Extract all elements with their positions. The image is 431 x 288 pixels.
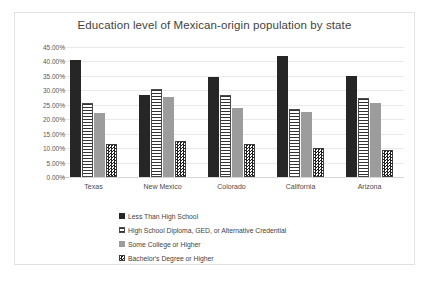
bar[interactable] xyxy=(244,144,255,178)
bar[interactable] xyxy=(70,60,81,177)
y-axis-tick-label: 20.00% xyxy=(21,116,65,123)
y-axis-tick-label: 40.00% xyxy=(21,58,65,65)
bar[interactable] xyxy=(370,103,381,177)
bar[interactable] xyxy=(346,76,357,177)
bar[interactable] xyxy=(220,95,231,177)
bar-group: Arizona xyxy=(335,47,404,177)
legend-swatch-icon xyxy=(119,255,125,261)
bar-group: Texas xyxy=(59,47,128,177)
y-axis-tick-label: 25.00% xyxy=(21,101,65,108)
bar[interactable] xyxy=(163,97,174,177)
legend-item[interactable]: Some College or Higher xyxy=(119,237,379,251)
bar-group: New Mexico xyxy=(128,47,197,177)
legend-label: Some College or Higher xyxy=(128,241,201,248)
legend-label: Bachelor's Degree or Higher xyxy=(128,255,214,262)
y-axis-tick-label: 45.00% xyxy=(21,44,65,51)
plot-area: TexasNew MexicoColoradoCaliforniaArizona xyxy=(59,47,404,177)
chart-container: Education level of Mexican-origin popula… xyxy=(14,12,415,265)
x-axis-tick-label: Arizona xyxy=(335,183,404,190)
bar[interactable] xyxy=(82,103,93,177)
bar[interactable] xyxy=(358,98,369,177)
bar[interactable] xyxy=(175,141,186,177)
y-axis-tick-label: 5.00% xyxy=(21,159,65,166)
legend-item[interactable]: Bachelor's Degree or Higher xyxy=(119,251,379,265)
y-axis-tick-label: 15.00% xyxy=(21,130,65,137)
bar[interactable] xyxy=(289,109,300,177)
bar[interactable] xyxy=(232,108,243,177)
bars xyxy=(59,47,128,177)
legend-item[interactable]: Less Than High School xyxy=(119,209,379,223)
y-axis-tick-label: 10.00% xyxy=(21,145,65,152)
bar-group: California xyxy=(266,47,335,177)
gridline xyxy=(59,177,404,178)
x-axis-tick-label: Texas xyxy=(59,183,128,190)
bar[interactable] xyxy=(94,113,105,177)
bar[interactable] xyxy=(208,77,219,177)
y-axis-tick-label: 30.00% xyxy=(21,87,65,94)
legend-item[interactable]: High School Diploma, GED, or Alternative… xyxy=(119,223,379,237)
bars xyxy=(335,47,404,177)
bar[interactable] xyxy=(106,144,117,178)
bar[interactable] xyxy=(151,89,162,177)
legend-swatch-icon xyxy=(119,227,125,233)
x-axis-tick-label: Colorado xyxy=(197,183,266,190)
chart-legend: Less Than High SchoolHigh School Diploma… xyxy=(119,209,379,265)
legend-swatch-icon xyxy=(119,213,125,219)
legend-label: Less Than High School xyxy=(128,213,198,220)
bars xyxy=(266,47,335,177)
y-axis-tick-label: 0.00% xyxy=(21,174,65,181)
legend-swatch-icon xyxy=(119,241,125,247)
chart-title: Education level of Mexican-origin popula… xyxy=(15,19,414,31)
x-axis-tick-label: California xyxy=(266,183,335,190)
bar[interactable] xyxy=(139,95,150,177)
y-axis-tick-label: 35.00% xyxy=(21,72,65,79)
bar-group: Colorado xyxy=(197,47,266,177)
bar[interactable] xyxy=(382,150,393,177)
legend-label: High School Diploma, GED, or Alternative… xyxy=(128,227,286,234)
bar[interactable] xyxy=(313,148,324,177)
bar[interactable] xyxy=(301,112,312,177)
bars xyxy=(197,47,266,177)
bar-groups: TexasNew MexicoColoradoCaliforniaArizona xyxy=(59,47,404,177)
bars xyxy=(128,47,197,177)
x-axis-tick-label: New Mexico xyxy=(128,183,197,190)
bar[interactable] xyxy=(277,56,288,177)
